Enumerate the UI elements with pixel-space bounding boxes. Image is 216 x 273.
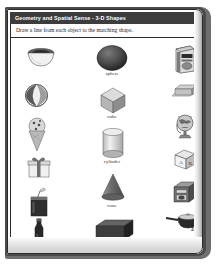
ice-cream-cone-icon [25, 117, 49, 153]
gift-box-icon [26, 154, 52, 180]
worksheet-header: Geometry and Spatial Sense - 3-D Shapes [10, 12, 200, 24]
cylinder-label: cylinder [92, 159, 132, 164]
page-curve-shading [194, 9, 203, 254]
sphere-shape [95, 45, 129, 71]
instruction-text: Draw a line from each object to the matc… [16, 27, 133, 33]
page-bottom-shading [7, 237, 203, 254]
cube-shape [98, 85, 128, 115]
drink-cup-icon [27, 187, 51, 219]
worksheet-paper: Geometry and Spatial Sense - 3-D Shapes … [7, 9, 203, 254]
cube-label: cube [92, 114, 132, 119]
cone-shape [99, 172, 127, 202]
cone-label: cone [92, 203, 132, 208]
sphere-label: sphere [92, 71, 132, 76]
dog-bowl-icon [25, 47, 57, 71]
page-title: Geometry and Spatial Sense - 3-D Shapes [15, 15, 126, 21]
svg-text:A: A [179, 160, 183, 165]
cylinder-shape [100, 127, 126, 159]
worksheet-photo: Geometry and Spatial Sense - 3-D Shapes … [0, 0, 216, 273]
beach-ball-icon [24, 83, 49, 108]
